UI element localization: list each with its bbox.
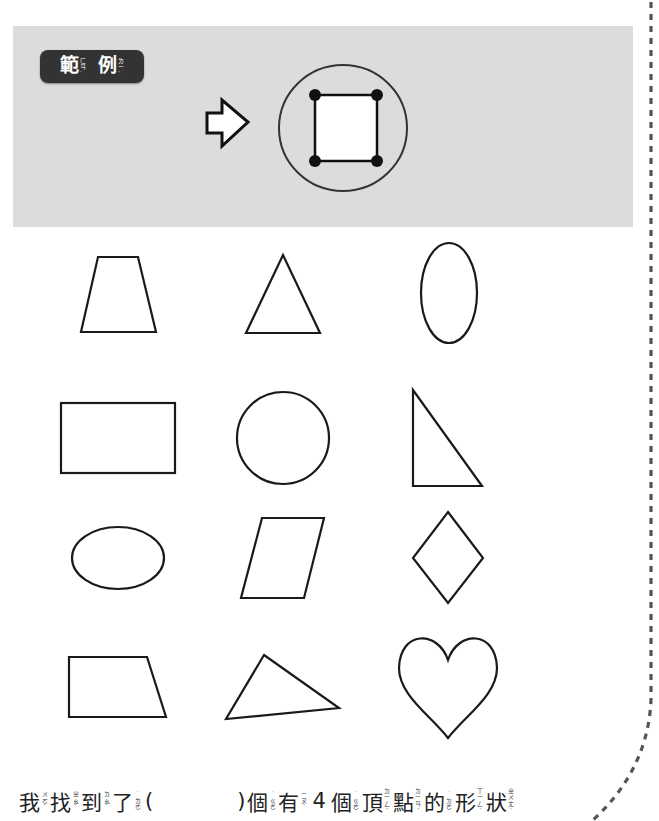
dashed-border <box>592 2 651 821</box>
right-triangle-shape <box>413 390 482 486</box>
word: 形ㄒㄧㄥˊ <box>455 786 484 816</box>
vertex-dot <box>309 89 321 101</box>
heart-shape <box>399 638 497 738</box>
right-trapezoid-shape <box>69 657 166 717</box>
rhombus-shape <box>413 512 483 603</box>
word: 點ㄉㄧㄢˇ <box>393 786 422 816</box>
right-arrow-icon <box>207 100 248 146</box>
shapes-canvas <box>0 0 659 821</box>
word: 個˙ㄍㄜ <box>247 786 276 816</box>
word: 頂ㄉㄧㄥˇ <box>362 786 391 816</box>
vertex-dot <box>371 89 383 101</box>
parallelogram-shape <box>241 518 324 598</box>
rectangle-shape <box>61 403 175 473</box>
word: 有ㄧㄡˇ <box>278 786 307 816</box>
word: 到ㄉㄠˋ <box>81 786 110 816</box>
word: 找ㄓㄠˇ <box>50 786 79 816</box>
scalene-triangle-shape <box>226 655 339 719</box>
vertical-ellipse-shape <box>421 243 477 343</box>
open-paren: ( <box>145 789 153 813</box>
vertex-dot <box>309 155 321 167</box>
trapezoid-shape <box>81 257 156 332</box>
word: 的˙ㄉㄜ <box>424 786 453 816</box>
triangle-shape <box>246 255 320 333</box>
word: 狀ㄓㄨㄤˋ <box>486 786 515 816</box>
question-sentence: 我ㄨㄛˇ 找ㄓㄠˇ 到ㄉㄠˋ 了˙ㄌㄜ ( ) 個˙ㄍㄜ 有ㄧㄡˇ 4 個˙ㄍㄜ… <box>19 786 517 816</box>
vertex-count: 4 <box>312 789 325 813</box>
example-demo-shape <box>279 65 407 191</box>
circle-shape <box>237 392 329 484</box>
word: 我ㄨㄛˇ <box>19 786 48 816</box>
word: 了˙ㄌㄜ <box>112 786 141 816</box>
vertex-dot <box>371 155 383 167</box>
word: 個˙ㄍㄜ <box>331 786 360 816</box>
close-paren: ) <box>237 789 245 813</box>
horizontal-ellipse-shape <box>72 527 164 589</box>
